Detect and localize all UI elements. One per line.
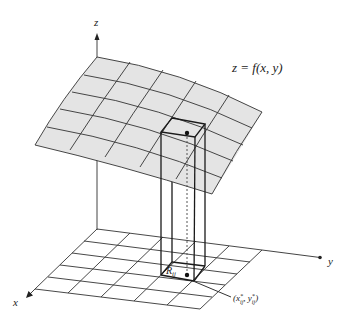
- sample-point-label: (x*ij, y*ij): [233, 293, 258, 305]
- surface: [35, 57, 262, 194]
- z-axis-label: z: [93, 16, 99, 28]
- z-arrow-icon: [95, 33, 100, 40]
- surface-diagram: z = f(x, y) z x y Rij (x*ij, y*ij): [0, 0, 349, 322]
- surface-point-dot: [185, 131, 189, 135]
- surface-equation-label: z = f(x, y): [231, 60, 283, 75]
- x-axis: [26, 289, 35, 298]
- y-axis: [262, 250, 322, 259]
- y-axis-label: y: [327, 255, 333, 267]
- sample-point-dot: [185, 273, 189, 277]
- x-axis-label: x: [12, 296, 18, 308]
- floor-grid: [35, 229, 262, 309]
- y-axis-end-dot: [318, 256, 322, 260]
